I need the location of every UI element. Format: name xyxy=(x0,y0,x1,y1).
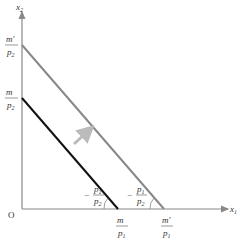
svg-text:m: m xyxy=(117,215,124,225)
x-intercept-new-label: m′ p1 xyxy=(161,215,173,239)
svg-text:p1: p1 xyxy=(93,184,102,195)
angle-arc-new xyxy=(150,198,154,209)
y-axis-label: x2 xyxy=(15,2,23,13)
svg-text:p2: p2 xyxy=(6,100,15,111)
y-intercept-new-label: m′ p2 xyxy=(5,34,18,58)
svg-text:m′: m′ xyxy=(6,34,15,44)
slope-new-label: − p1 p2 xyxy=(127,184,147,207)
svg-text:p1: p1 xyxy=(117,228,126,239)
svg-text:m: m xyxy=(6,87,13,97)
angle-arc-original xyxy=(104,198,108,209)
x-axis-label: x1 xyxy=(229,204,237,215)
svg-text:−: − xyxy=(84,190,89,200)
svg-text:p2: p2 xyxy=(136,196,145,207)
new-budget-line xyxy=(22,45,164,209)
svg-text:p2: p2 xyxy=(6,47,15,58)
slope-original-label: − p1 p2 xyxy=(84,184,104,207)
budget-line-diagram: x2 x1 O m′ p2 m p2 m p1 m′ p1 − p1 p2 − … xyxy=(0,0,244,245)
y-intercept-original-label: m p2 xyxy=(5,87,18,111)
original-budget-line xyxy=(22,98,118,209)
origin-label: O xyxy=(8,210,15,220)
shift-arrow xyxy=(74,131,88,144)
svg-text:−: − xyxy=(127,190,132,200)
svg-text:p1: p1 xyxy=(162,228,171,239)
x-intercept-original-label: m p1 xyxy=(116,215,128,239)
svg-text:p2: p2 xyxy=(93,196,102,207)
svg-text:m′: m′ xyxy=(162,215,171,225)
